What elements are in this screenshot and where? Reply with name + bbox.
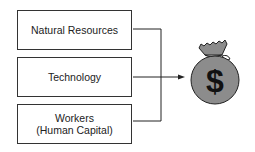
dollar-sign: $ <box>206 63 224 99</box>
connector-lines: $ <box>0 0 255 152</box>
money-bag-icon: $ <box>191 40 239 104</box>
arrow-head-icon <box>178 75 185 80</box>
bracket-connector <box>133 29 161 121</box>
